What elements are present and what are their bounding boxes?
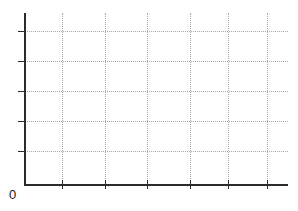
y-axis-line (24, 13, 26, 186)
gridline-vertical (147, 13, 149, 185)
chart-screenshot: 0 (0, 0, 298, 211)
gridline-horizontal (25, 121, 288, 123)
gridline-horizontal (25, 31, 288, 33)
gridline-horizontal (25, 151, 288, 153)
gridline-vertical (228, 13, 230, 185)
gridline-vertical (190, 13, 192, 185)
gridline-vertical (267, 13, 269, 185)
gridline-vertical (105, 13, 107, 185)
gridline-vertical (62, 13, 64, 185)
gridline-horizontal (25, 91, 288, 93)
x-axis-line (24, 184, 288, 186)
empty-plot-grid: 0 (0, 0, 298, 211)
origin-label: 0 (9, 187, 16, 202)
gridline-horizontal (25, 61, 288, 63)
